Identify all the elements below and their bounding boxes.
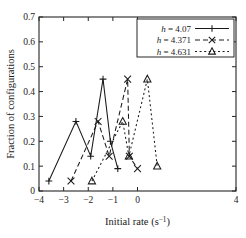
plot-canvas: −4−3−2−104 00.10.20.30.40.50.60.7 h = 4.…	[0, 0, 246, 238]
data-point-marker-plus	[45, 178, 52, 185]
data-point-marker-plus	[73, 118, 80, 125]
legend-label: h = 4.371	[157, 35, 191, 45]
chart-legend: h = 4.07h = 4.371h = 4.631	[137, 19, 234, 57]
data-series-group	[45, 75, 160, 184]
data-point-marker-cross	[134, 165, 141, 172]
y-tick-label: 0.7	[23, 12, 35, 22]
y-tick-label: 0.3	[23, 112, 35, 122]
data-point-marker-cross	[106, 153, 113, 160]
data-point-marker-plus	[114, 165, 121, 172]
x-tick-label: −4	[34, 195, 44, 205]
chart-figure: −4−3−2−104 00.10.20.30.40.50.60.7 h = 4.…	[0, 0, 246, 238]
legend-label: h = 4.07	[161, 24, 191, 34]
y-tick-label: 0	[30, 186, 35, 196]
x-tick-label: −2	[83, 195, 93, 205]
data-point-marker-cross	[68, 178, 75, 185]
series-line-dotted	[92, 79, 157, 181]
y-tick-label: 0.6	[23, 37, 35, 47]
data-point-marker-triangle	[119, 117, 126, 124]
data-point-marker-plus	[107, 138, 114, 145]
x-axis-title: Initial rate (s−1)	[105, 216, 170, 228]
data-point-marker-plus	[100, 76, 107, 83]
y-axis-title: Fraction of configurations	[5, 49, 16, 159]
data-point-marker-plus	[87, 153, 94, 160]
y-tick-label: 0.1	[23, 162, 35, 172]
series-1	[45, 76, 121, 185]
x-tick-label: −3	[59, 195, 69, 205]
data-point-marker-cross	[124, 76, 131, 83]
series-line-dashed	[71, 79, 137, 181]
legend-label: h = 4.631	[157, 47, 191, 57]
x-tick-label: 4	[234, 195, 239, 205]
x-tick-label: −1	[108, 195, 118, 205]
data-point-marker-cross	[95, 118, 102, 125]
y-tick-label: 0.4	[23, 87, 35, 97]
y-tick-label: 0.5	[23, 62, 35, 72]
y-tick-label: 0.2	[23, 137, 35, 147]
x-tick-label: 0	[135, 195, 140, 205]
series-line-solid	[49, 79, 118, 181]
